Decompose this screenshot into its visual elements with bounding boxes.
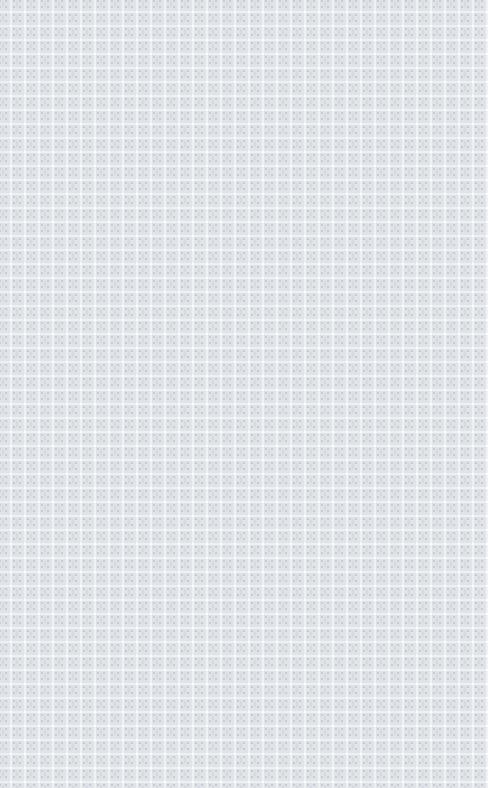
pattern-canvas	[0, 0, 488, 788]
vertical-banding-layer	[0, 0, 488, 788]
